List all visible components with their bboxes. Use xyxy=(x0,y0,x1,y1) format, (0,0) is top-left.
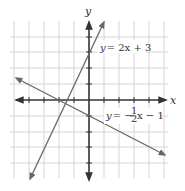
x-axis-label: x xyxy=(170,94,177,107)
svg-text:y= −: y= − xyxy=(105,110,133,121)
svg-text:x − 1: x − 1 xyxy=(137,110,164,121)
equation-label-1: y= 2x + 3 xyxy=(98,40,151,53)
equation-label-2: y= − 1 2 x − 1 xyxy=(104,105,164,124)
coordinate-graph: y x y= 2x + 3 y= − 1 2 x − 1 xyxy=(0,0,185,191)
y-axis-label: y xyxy=(84,5,92,18)
svg-text:y= 2x + 3: y= 2x + 3 xyxy=(99,42,151,53)
